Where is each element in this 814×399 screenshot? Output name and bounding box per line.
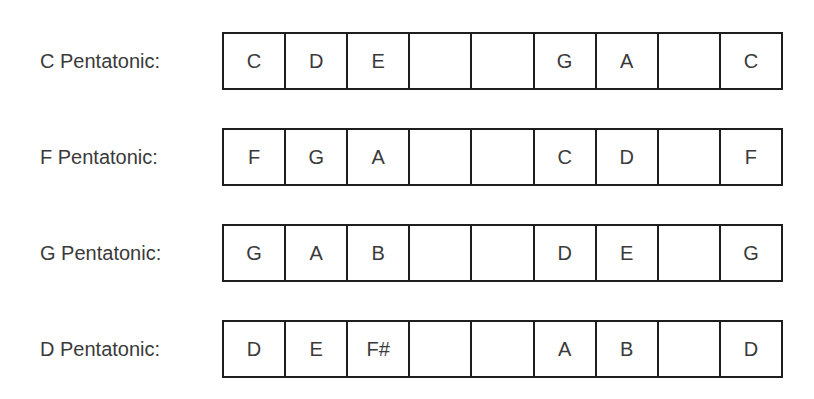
empty-cell <box>659 322 721 376</box>
note-cell: E <box>348 34 410 88</box>
note-cell: D <box>535 226 597 280</box>
note-cell: D <box>721 322 781 376</box>
note-cell: A <box>535 322 597 376</box>
scale-label: C Pentatonic: <box>40 32 160 90</box>
scale-label: G Pentatonic: <box>40 224 161 282</box>
note-cell: D <box>286 34 348 88</box>
empty-cell <box>659 226 721 280</box>
note-cell: G <box>535 34 597 88</box>
scale-label: F Pentatonic: <box>40 128 158 186</box>
note-cell: F <box>721 130 781 184</box>
empty-cell <box>410 226 472 280</box>
scale-row: G Pentatonic:GABDEG <box>0 224 814 282</box>
empty-cell <box>410 34 472 88</box>
note-cell: D <box>597 130 659 184</box>
scale-label: D Pentatonic: <box>40 320 160 378</box>
scale-row: C Pentatonic:CDEGAC <box>0 32 814 90</box>
empty-cell <box>472 34 534 88</box>
note-cell: G <box>224 226 286 280</box>
note-cell: B <box>597 322 659 376</box>
note-cell: A <box>286 226 348 280</box>
scale-row: F Pentatonic:FGACDF <box>0 128 814 186</box>
note-cell: A <box>597 34 659 88</box>
empty-cell <box>472 226 534 280</box>
scale-row: D Pentatonic:DEF#ABD <box>0 320 814 378</box>
note-cell: G <box>286 130 348 184</box>
note-cell: C <box>535 130 597 184</box>
note-cell: B <box>348 226 410 280</box>
note-cell: D <box>224 322 286 376</box>
note-cell: F# <box>348 322 410 376</box>
empty-cell <box>410 322 472 376</box>
empty-cell <box>472 322 534 376</box>
note-grid: CDEGAC <box>222 32 783 90</box>
note-cell: F <box>224 130 286 184</box>
note-grid: GABDEG <box>222 224 783 282</box>
note-cell: E <box>597 226 659 280</box>
note-grid: FGACDF <box>222 128 783 186</box>
note-cell: A <box>348 130 410 184</box>
note-cell: C <box>721 34 781 88</box>
empty-cell <box>472 130 534 184</box>
note-cell: C <box>224 34 286 88</box>
note-cell: G <box>721 226 781 280</box>
empty-cell <box>659 130 721 184</box>
empty-cell <box>410 130 472 184</box>
empty-cell <box>659 34 721 88</box>
note-grid: DEF#ABD <box>222 320 783 378</box>
note-cell: E <box>286 322 348 376</box>
